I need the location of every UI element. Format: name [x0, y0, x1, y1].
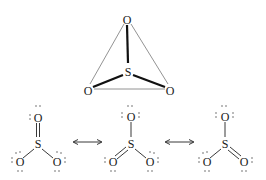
atom-sulfur: S	[128, 137, 135, 151]
atom-oxygen: O	[84, 84, 93, 98]
atom-oxygen: O	[16, 155, 25, 169]
atom-sulfur: S	[35, 137, 42, 151]
resonance-structure-3: O S O O	[198, 105, 252, 171]
atom-oxygen: O	[203, 155, 212, 169]
bond-line	[133, 75, 165, 87]
atom-oxygen: O	[127, 110, 136, 124]
atom-oxygen: O	[166, 84, 175, 98]
resonance-structure-1: O S O O	[11, 105, 65, 171]
tetrahedral-structure: O S O O	[84, 13, 175, 98]
atom-oxygen: O	[109, 155, 118, 169]
atom-sulfur: S	[222, 137, 229, 151]
edge-line	[90, 24, 124, 84]
atom-sulfur: S	[125, 65, 132, 79]
atom-oxygen: O	[123, 13, 132, 27]
atom-oxygen: O	[34, 111, 43, 125]
bond-line	[127, 25, 128, 63]
atom-oxygen: O	[53, 155, 62, 169]
bond-line	[93, 75, 123, 87]
atom-oxygen: O	[146, 155, 155, 169]
edge-line	[131, 24, 168, 84]
resonance-arrow	[73, 140, 102, 145]
so3-diagram: O S O O O S O O O	[0, 0, 266, 180]
resonance-arrow	[165, 140, 194, 145]
atom-oxygen: O	[221, 110, 230, 124]
atom-oxygen: O	[240, 155, 249, 169]
resonance-structure-2: O S O O	[104, 105, 158, 171]
